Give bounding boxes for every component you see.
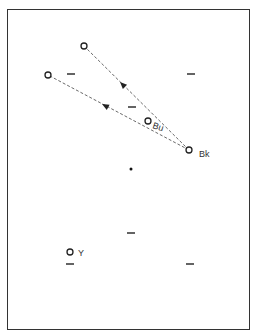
point-left xyxy=(45,72,51,78)
center-dot xyxy=(130,168,133,171)
point-bu xyxy=(145,118,151,124)
diagram-canvas: Bu Bk Y xyxy=(0,0,257,334)
points xyxy=(45,43,192,255)
point-top xyxy=(81,43,87,49)
movement-lines xyxy=(48,46,189,150)
line-bk-to-left xyxy=(48,75,189,150)
label-bk: Bk xyxy=(199,149,210,159)
point-bk xyxy=(186,147,192,153)
line-bk-to-top xyxy=(84,46,189,150)
label-y: Y xyxy=(78,248,84,258)
arrow-icon xyxy=(101,101,110,110)
arrowheads xyxy=(101,80,127,110)
point-y xyxy=(67,249,73,255)
